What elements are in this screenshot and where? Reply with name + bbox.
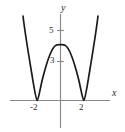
graph-figure: y x 5 3 -2 2 <box>0 0 125 132</box>
plot-canvas <box>0 0 125 132</box>
x-axis-label: x <box>112 88 116 98</box>
y-tick-label-5: 5 <box>49 26 54 35</box>
y-axis-label: y <box>61 3 65 13</box>
x-tick-label-plus-2: 2 <box>79 103 84 112</box>
y-tick-label-3: 3 <box>50 56 55 65</box>
x-tick-label-minus-2: -2 <box>30 103 38 112</box>
